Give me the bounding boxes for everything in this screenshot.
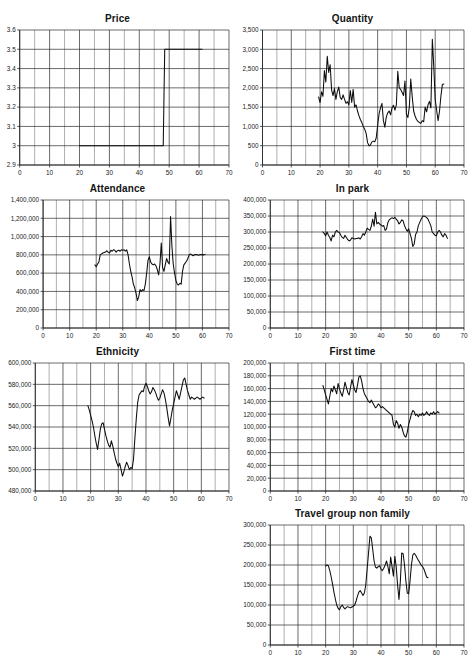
svg-text:40: 40 [377, 495, 385, 502]
svg-text:1,000,000: 1,000,000 [11, 233, 40, 240]
svg-text:400,000: 400,000 [243, 196, 267, 203]
chart-title-first-time: First time [235, 345, 470, 359]
svg-text:2,000: 2,000 [243, 84, 259, 91]
svg-text:20: 20 [76, 169, 84, 176]
svg-text:3.3: 3.3 [7, 84, 16, 91]
svg-text:3.4: 3.4 [7, 65, 16, 72]
svg-text:20: 20 [322, 332, 330, 339]
svg-text:300,000: 300,000 [243, 228, 267, 235]
svg-text:30: 30 [350, 495, 358, 502]
svg-text:140,000: 140,000 [243, 398, 267, 405]
svg-text:400,000: 400,000 [16, 288, 40, 295]
svg-text:50,000: 50,000 [247, 308, 267, 315]
svg-text:180,000: 180,000 [243, 372, 267, 379]
svg-text:1,000: 1,000 [243, 123, 259, 130]
svg-text:0: 0 [263, 487, 267, 494]
svg-text:600,000: 600,000 [16, 269, 40, 276]
chart-sheet: Price 2.933.13.23.33.43.53.6010203040506… [0, 0, 470, 665]
svg-text:350,000: 350,000 [243, 212, 267, 219]
svg-text:50: 50 [172, 332, 180, 339]
chart-svg-quantity: 05001,0001,5002,0002,5003,0003,500010203… [235, 26, 470, 181]
chart-svg-in-park: 050,000100,000150,000200,000250,000300,0… [235, 196, 470, 344]
svg-text:70: 70 [225, 495, 233, 502]
svg-text:60: 60 [433, 649, 441, 656]
chart-panel-ethnicity: Ethnicity 480,000500,000520,000540,00056… [0, 345, 235, 507]
chart-title-travel-group-non-family: Travel group non family [235, 507, 470, 521]
svg-text:800,000: 800,000 [16, 251, 40, 258]
plot-area-in-park: 050,000100,000150,000200,000250,000300,0… [235, 196, 470, 344]
svg-text:70: 70 [460, 332, 468, 339]
svg-text:0: 0 [269, 649, 273, 656]
svg-text:30: 30 [106, 169, 114, 176]
svg-text:60: 60 [198, 495, 206, 502]
svg-text:0: 0 [269, 332, 273, 339]
svg-text:2.9: 2.9 [7, 161, 16, 168]
svg-text:500,000: 500,000 [8, 466, 32, 473]
svg-text:60: 60 [196, 169, 204, 176]
chart-panel-price: Price 2.933.13.23.33.43.53.6010203040506… [0, 12, 235, 182]
svg-text:0: 0 [255, 161, 259, 168]
svg-text:520,000: 520,000 [8, 445, 32, 452]
svg-text:60: 60 [432, 169, 440, 176]
svg-text:50: 50 [405, 495, 413, 502]
svg-text:60,000: 60,000 [247, 449, 267, 456]
svg-text:600,000: 600,000 [8, 359, 32, 366]
svg-text:1,500: 1,500 [243, 103, 259, 110]
chart-svg-travel-group-non-family: 050,000100,000150,000200,000250,000300,0… [235, 521, 470, 661]
chart-panel-in-park: In park 050,000100,000150,000200,000250,… [235, 182, 470, 345]
svg-text:100,000: 100,000 [243, 423, 267, 430]
svg-text:30: 30 [115, 495, 123, 502]
chart-title-attendance: Attendance [0, 182, 235, 196]
svg-text:0: 0 [36, 324, 40, 331]
svg-text:100,000: 100,000 [243, 292, 267, 299]
svg-text:70: 70 [225, 169, 233, 176]
svg-text:580,000: 580,000 [8, 381, 32, 388]
chart-panel-travel-group-non-family: Travel group non family 050,000100,00015… [235, 507, 470, 662]
svg-text:30: 30 [119, 332, 127, 339]
svg-text:3,500: 3,500 [243, 26, 259, 33]
svg-text:70: 70 [225, 332, 233, 339]
svg-text:10: 10 [294, 332, 302, 339]
chart-svg-ethnicity: 480,000500,000520,000540,000560,000580,0… [0, 359, 235, 507]
svg-text:2,500: 2,500 [243, 65, 259, 72]
svg-text:10: 10 [288, 169, 296, 176]
svg-text:40: 40 [377, 332, 385, 339]
svg-text:3: 3 [12, 142, 16, 149]
svg-text:20,000: 20,000 [247, 475, 267, 482]
svg-text:50: 50 [405, 649, 413, 656]
svg-text:540,000: 540,000 [8, 423, 32, 430]
svg-text:50: 50 [403, 169, 411, 176]
chart-title-quantity: Quantity [235, 12, 470, 26]
svg-text:30: 30 [345, 169, 353, 176]
svg-text:0: 0 [263, 641, 267, 648]
plot-area-price: 2.933.13.23.33.43.53.6010203040506070 [0, 26, 235, 181]
svg-text:40,000: 40,000 [247, 462, 267, 469]
svg-text:560,000: 560,000 [8, 402, 32, 409]
svg-text:70: 70 [460, 649, 468, 656]
svg-text:3,000: 3,000 [243, 46, 259, 53]
chart-svg-attendance: 0200,000400,000600,000800,0001,000,0001,… [0, 196, 235, 344]
svg-text:3.6: 3.6 [7, 26, 16, 33]
svg-text:120,000: 120,000 [243, 411, 267, 418]
plot-area-attendance: 0200,000400,000600,000800,0001,000,0001,… [0, 196, 235, 344]
svg-text:10: 10 [46, 169, 54, 176]
svg-text:20: 20 [317, 169, 325, 176]
chart-panel-quantity: Quantity 05001,0001,5002,0002,5003,0003,… [235, 12, 470, 182]
chart-title-price: Price [0, 12, 235, 26]
svg-text:100,000: 100,000 [243, 601, 267, 608]
svg-text:0: 0 [34, 495, 38, 502]
plot-area-first-time: 020,00040,00060,00080,000100,000120,0001… [235, 359, 470, 507]
svg-text:40: 40 [136, 169, 144, 176]
svg-text:480,000: 480,000 [8, 487, 32, 494]
svg-text:200,000: 200,000 [243, 561, 267, 568]
svg-text:3.2: 3.2 [7, 103, 16, 110]
svg-text:30: 30 [350, 332, 358, 339]
chart-panel-first-time: First time 020,00040,00060,00080,000100,… [235, 345, 470, 507]
chart-panel-attendance: Attendance 0200,000400,000600,000800,000… [0, 182, 235, 345]
plot-area-travel-group-non-family: 050,000100,000150,000200,000250,000300,0… [235, 521, 470, 661]
svg-text:0: 0 [18, 169, 22, 176]
svg-text:40: 40 [146, 332, 154, 339]
svg-text:3.1: 3.1 [7, 123, 16, 130]
svg-text:10: 10 [294, 495, 302, 502]
small-multiples-grid: Price 2.933.13.23.33.43.53.6010203040506… [0, 0, 470, 665]
